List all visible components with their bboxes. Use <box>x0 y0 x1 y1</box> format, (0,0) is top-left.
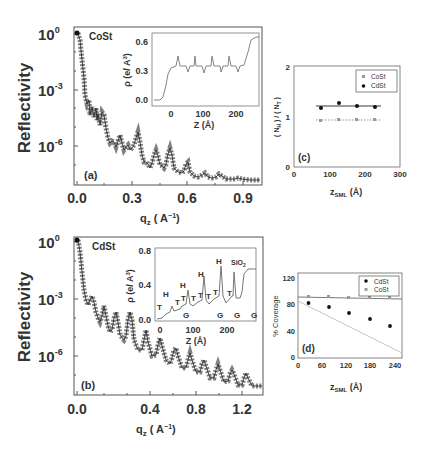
panel-d-xtick: 60 <box>318 361 326 370</box>
inset-a-xtick: 100 <box>195 109 210 119</box>
panel-a-ylabel: Reflectivity <box>15 62 34 153</box>
panel-a: 100 10-3 10-6 Reflectivity 0.0 0.3 0.6 0… <box>15 25 262 227</box>
panel-c-xtick: 300 <box>393 170 407 179</box>
panel-c-ylabel: ( NH ) / ( NT ) <box>273 97 282 137</box>
inset-b-ylabel: ρ (e/ A3) <box>125 269 135 303</box>
legend-cdst-label: CdSt <box>371 82 386 89</box>
legend-cdst-marker <box>362 84 366 88</box>
panel-c-xtick: 100 <box>323 170 337 179</box>
panel-a-ytick-2: 10-6 <box>38 137 63 155</box>
layer-label-T: T <box>191 294 196 303</box>
inset-a-xtick: 0 <box>168 109 173 119</box>
figure: 100 10-3 10-6 Reflectivity 0.0 0.3 0.6 0… <box>0 0 427 456</box>
inset-b-xtick: 100 <box>185 325 200 335</box>
panel-a-inset: 0.6 0.3 0.0 0 100 200 Z (Å) ρ (e/ A3) <box>122 33 259 130</box>
inset-a-xlabel: Z (Å) <box>194 120 215 130</box>
layer-label-T: T <box>157 303 162 312</box>
panel-d-xtick: 180 <box>364 361 377 370</box>
panel-b-xtick: 0.4 <box>140 401 160 417</box>
inset-b-ytick: 0.4 <box>138 280 151 290</box>
panel-d-ylabel: % Coverage <box>271 295 280 336</box>
panel-b-ylabel: Reflectivity <box>15 271 34 362</box>
panel-d-xtick: 120 <box>340 361 353 370</box>
panel-d-cdst-points <box>307 301 392 328</box>
panel-c-xlabel: zSML (Å) <box>330 187 362 198</box>
panel-b-xtick: 1.2 <box>232 401 252 417</box>
panel-c-ytick: 0 <box>286 163 291 172</box>
inset-a-ytick: 0.0 <box>135 95 148 105</box>
panel-a-xtick: 0.0 <box>67 190 87 206</box>
legend-cost-label: CoSt <box>371 73 386 80</box>
panel-c-legend: CoSt CdSt <box>356 70 397 92</box>
panel-a-ytick-1: 10-3 <box>38 81 63 99</box>
panel-d-tag: (d) <box>302 343 315 354</box>
panel-c-ytick: 2 <box>286 63 291 72</box>
layer-label-T: T <box>206 292 211 301</box>
panel-b-ytick-0: 100 <box>38 233 60 251</box>
panel-a-xlabel: qz ( A−1) <box>140 212 180 227</box>
panel-a-tag: (a) <box>84 169 98 181</box>
panel-d-ytick: 40 <box>287 327 295 336</box>
panel-c: 2 1 0 0 100 200 300 zSML (Å) ( NH ) / ( … <box>273 63 407 198</box>
layer-label-H: H <box>216 257 222 266</box>
inset-b-xtick: 0 <box>157 325 162 335</box>
panel-d-xtick: 240 <box>389 361 402 370</box>
layer-label-T: T <box>175 298 180 307</box>
inset-a-ylabel: ρ (e/ A3) <box>122 53 132 87</box>
panel-b-xtick: 0.0 <box>67 401 87 417</box>
panel-b-tag: (b) <box>81 379 95 391</box>
legend-cost-marker <box>365 288 368 291</box>
inset-b-ytick: 0.8 <box>138 246 151 256</box>
panel-a-xtick: 0.9 <box>233 190 253 206</box>
panel-c-ytick: 1 <box>286 113 291 122</box>
panel-d-legend: CdSt CoSt <box>359 276 399 296</box>
panel-b-ytick-1: 10-3 <box>38 290 63 308</box>
panel-d-ytick: 120 <box>282 274 295 283</box>
panel-b-first-point <box>75 238 80 243</box>
inset-a-xtick: 200 <box>228 109 243 119</box>
legend-cdst-label: CdSt <box>374 278 389 285</box>
layer-label-T: T <box>213 288 218 297</box>
legend-cost-label: CoSt <box>374 286 389 293</box>
layer-label-T: T <box>181 294 186 303</box>
legend-cdst-marker <box>364 279 368 283</box>
inset-b-xlabel: Z (Å) <box>186 336 207 346</box>
panel-a-xtick: 0.6 <box>177 190 197 206</box>
inset-a-ytick: 0.3 <box>135 66 148 76</box>
panel-d-ytick: 80 <box>287 300 295 309</box>
panel-a-sample-label: CoSt <box>89 31 113 42</box>
panel-d-xlabel: zSML (Å) <box>330 382 362 393</box>
panel-c-cdst-points <box>319 101 377 110</box>
layer-label-T: T <box>227 289 232 298</box>
panel-d-ytick: 0 <box>291 353 295 362</box>
layer-label-H: H <box>198 270 204 279</box>
layer-label-G: G <box>183 311 189 320</box>
layer-label-G: G <box>217 311 223 320</box>
layer-label-G: G <box>251 311 257 320</box>
inset-a-ytick: 0.6 <box>135 37 148 47</box>
panel-b-ytick-2: 10-6 <box>38 347 63 365</box>
panel-c-tag: (c) <box>298 152 310 163</box>
inset-b-ytick: 0.0 <box>138 315 151 325</box>
panel-b-xtick: 0.8 <box>186 401 206 417</box>
layer-label-H: H <box>180 281 186 290</box>
panel-b-xlabel: qz ( A−1) <box>136 423 176 438</box>
panel-a-first-point <box>75 31 80 36</box>
panel-d-xtick: 0 <box>296 361 300 370</box>
inset-b-xtick: 200 <box>219 325 234 335</box>
panel-c-xtick: 0 <box>292 170 297 179</box>
legend-cost-marker <box>362 75 365 78</box>
panel-b-sample-label: CdSt <box>92 241 116 252</box>
panel-c-xtick: 200 <box>358 170 372 179</box>
panel-a-ytick-0: 100 <box>38 25 60 43</box>
panel-b: 100 10-3 10-6 Reflectivity 0.0 0.4 0.8 1… <box>15 233 263 438</box>
panel-a-xtick: 0.3 <box>122 190 142 206</box>
layer-label-G: G <box>234 311 240 320</box>
layer-label-T: T <box>198 291 203 300</box>
panel-d: 120 80 40 0 0 60 120 180 240 zSML (Å) % … <box>271 273 402 393</box>
layer-label-H: H <box>163 290 169 299</box>
